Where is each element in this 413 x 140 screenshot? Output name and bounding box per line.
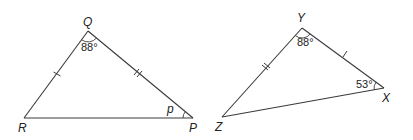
triangle-yzx: Y Z X 88° 53° [214, 11, 391, 134]
angle-arc-p [183, 112, 185, 118]
vertex-label-x: X [381, 91, 391, 105]
angle-label-p: p [166, 102, 174, 116]
side-zx [222, 88, 384, 117]
side-qr [24, 31, 88, 118]
angle-label-y: 88° [297, 36, 314, 48]
vertex-label-r: R [18, 121, 27, 135]
vertex-label-q: Q [83, 15, 92, 29]
vertex-label-z: Z [214, 120, 223, 134]
angle-label-q: 88° [81, 41, 98, 53]
angle-label-x: 53° [356, 78, 373, 90]
diagram-canvas: Q R P 88° p Y Z X 88° 53° [0, 0, 413, 140]
vertex-label-p: P [189, 121, 197, 135]
side-yz [222, 28, 302, 117]
tick-mark-yx [343, 51, 347, 57]
triangle-qrp: Q R P 88° p [18, 15, 197, 135]
double-tick-mark-yz [262, 63, 270, 70]
vertex-label-y: Y [297, 11, 306, 25]
angle-arc-x [374, 82, 376, 90]
side-qp [88, 31, 193, 118]
